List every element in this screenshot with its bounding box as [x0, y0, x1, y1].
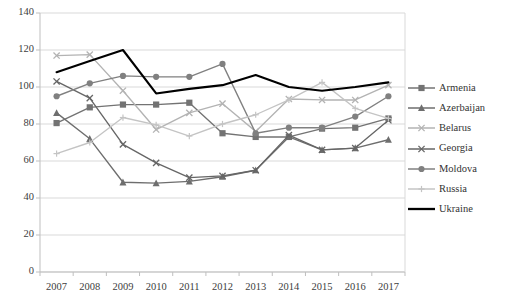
x-tick-label: 2017 — [368, 281, 408, 292]
line-chart: 140120100806040200 200720082009201020112… — [0, 0, 514, 306]
series-georgia — [53, 78, 391, 180]
legend-item-belarus[interactable]: Belarus — [408, 118, 512, 138]
legend-item-georgia[interactable]: Georgia — [408, 139, 512, 159]
y-tick-label: 120 — [0, 43, 34, 54]
y-tick-label: 80 — [0, 117, 34, 128]
legend-label: Russia — [439, 184, 467, 195]
legend-label: Moldova — [439, 164, 477, 175]
y-tick-label: 140 — [0, 6, 34, 17]
legend-marker-x-icon — [408, 122, 435, 134]
legend-item-azerbaijan[interactable]: Azerbaijan — [408, 98, 512, 118]
legend-label: Azerbaijan — [439, 103, 485, 114]
y-tick-label: 40 — [0, 191, 34, 202]
legend-item-russia[interactable]: Russia — [408, 179, 512, 199]
legend-marker-x-icon — [408, 143, 435, 155]
y-tick-label: 100 — [0, 80, 34, 91]
chart-legend: ArmeniaAzerbaijanBelarusGeorgiaMoldovaRu… — [408, 78, 512, 219]
legend-label: Armenia — [439, 83, 476, 94]
legend-marker-none-icon — [408, 203, 435, 215]
series-armenia — [53, 100, 391, 140]
legend-item-moldova[interactable]: Moldova — [408, 159, 512, 179]
legend-marker-circle-icon — [408, 163, 435, 175]
y-tick-label: 0 — [0, 265, 34, 276]
legend-item-armenia[interactable]: Armenia — [408, 78, 512, 98]
y-tick-label: 60 — [0, 154, 34, 165]
gridlines — [40, 13, 405, 272]
y-tick-label: 20 — [0, 228, 34, 239]
legend-marker-triangle-icon — [408, 102, 435, 114]
legend-marker-plus-icon — [408, 183, 435, 195]
legend-label: Georgia — [439, 143, 473, 154]
legend-marker-square-icon — [408, 82, 435, 94]
legend-item-ukraine[interactable]: Ukraine — [408, 199, 512, 219]
legend-label: Belarus — [439, 123, 471, 134]
legend-label: Ukraine — [439, 204, 473, 215]
